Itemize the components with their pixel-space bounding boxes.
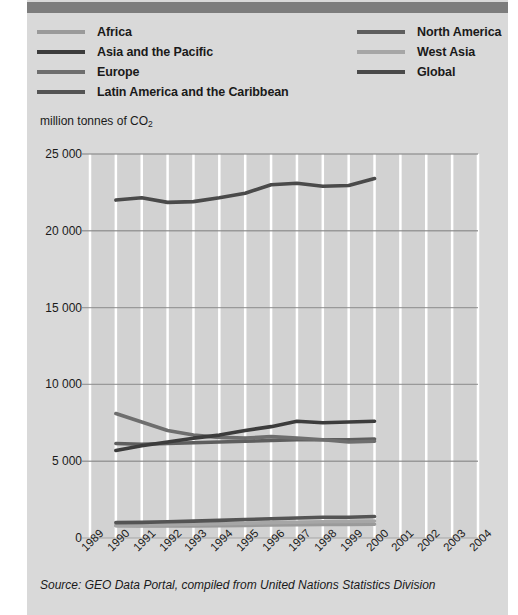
x-axis-tick-label: 1996 — [260, 527, 287, 554]
x-axis-tick-label: 2004 — [467, 527, 494, 554]
x-axis-tick-label: 1993 — [182, 527, 209, 554]
x-axis-tick-label: 2002 — [415, 527, 442, 554]
x-axis-tick-label: 1991 — [131, 527, 158, 554]
x-axis-tick-label: 2000 — [364, 527, 391, 554]
x-axis-tick-label: 2001 — [389, 527, 416, 554]
x-axis-tick-label: 1989 — [79, 527, 106, 554]
x-axis-tick-label: 1995 — [234, 527, 261, 554]
x-axis-tick-labels: 1989199019911992199319941995199619971998… — [0, 0, 518, 615]
x-axis-tick-label: 1994 — [208, 527, 235, 554]
x-axis-tick-label: 2003 — [441, 527, 468, 554]
x-axis-tick-label: 1992 — [157, 527, 184, 554]
source-note: Source: GEO Data Portal, compiled from U… — [40, 578, 435, 592]
x-axis-tick-label: 1997 — [286, 527, 313, 554]
chart-page: AfricaAsia and the PacificEuropeLatin Am… — [0, 0, 518, 615]
x-axis-tick-label: 1990 — [105, 527, 132, 554]
x-axis-tick-label: 1999 — [338, 527, 365, 554]
x-axis-tick-label: 1998 — [312, 527, 339, 554]
